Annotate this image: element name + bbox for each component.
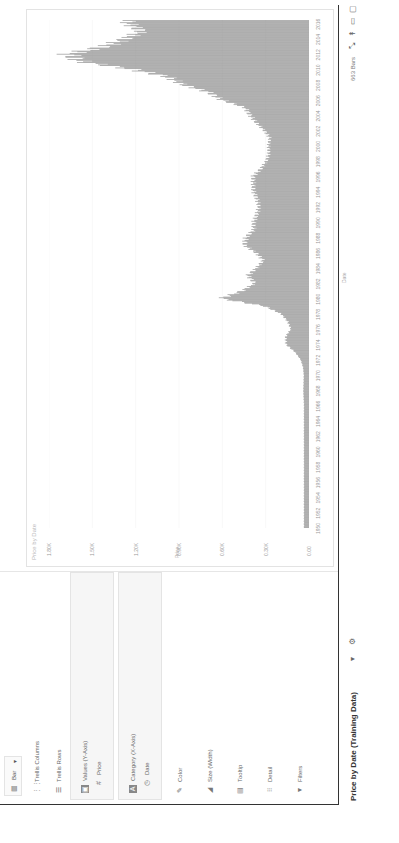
shelf-label: Trellis Rows [56, 750, 62, 782]
shelf-trellis-rows[interactable]: ☰ Trellis Rows [48, 572, 70, 800]
x-tick-label: 1992 [315, 202, 321, 213]
tooltip-icon: ▤ [236, 786, 244, 794]
color-icon: ✎ [176, 786, 184, 794]
x-tick-label: 1966 [315, 401, 321, 412]
x-tick-label: 1952 [315, 508, 321, 519]
x-tick-label: 1970 [315, 370, 321, 381]
shelf-label: Trellis Columns [34, 741, 40, 782]
x-tick-label: 1980 [315, 294, 321, 305]
x-tick-label: 1974 [315, 340, 321, 351]
settings-icon[interactable]: ⚙ [348, 638, 357, 645]
shelf-list: ⋮⋮ Trellis Columns ☰ Trellis Rows ▣ Valu… [26, 572, 338, 800]
panel-icon[interactable]: ▭ [348, 17, 357, 25]
x-tick-label: 1988 [315, 233, 321, 244]
bar-count-status: 663 Bars [350, 57, 356, 81]
y-tick-label: 1.80K [46, 543, 52, 556]
field-label: Price [96, 761, 102, 775]
pin-icon[interactable]: ↟ [348, 30, 357, 37]
x-tick-label: 1978 [315, 309, 321, 320]
y-tick-label: 0.60K [219, 543, 225, 556]
clock-icon: ◷ [143, 779, 151, 787]
shelf-filters[interactable]: ▼ Filters [286, 572, 314, 800]
x-tick-label: 2006 [315, 95, 321, 106]
trellis-rows-icon: ☰ [55, 786, 63, 794]
window-frame-left [0, 804, 338, 805]
x-tick-label: 2014 [315, 34, 321, 45]
window-icon[interactable]: ▢ [348, 5, 357, 13]
x-tick-label: 1962 [315, 431, 321, 442]
x-tick-label: 2010 [315, 65, 321, 76]
x-tick-label: 1982 [315, 278, 321, 289]
shelf-trellis-columns[interactable]: ⋮⋮ Trellis Columns [26, 572, 48, 800]
chart-panel: Price by Date 0.000.30K0.60K0.90K1.20K1.… [26, 9, 334, 567]
plot-area: 0.000.30K0.60K0.90K1.20K1.50K1.80K 19501… [49, 20, 317, 528]
filter-icon: ▼ [296, 786, 304, 794]
values-icon: ▣ [81, 785, 89, 793]
shelf-label: Filters [297, 766, 303, 782]
shelf-tooltip[interactable]: ▤ Tooltip [226, 572, 254, 800]
shelf-values-y-axis[interactable]: ▣ Values (Y-Axis) # Price [70, 572, 114, 800]
field-label: Date [144, 762, 150, 775]
x-tick-label: 1954 [315, 492, 321, 503]
chevron-down-icon: ▾ [11, 760, 18, 763]
x-tick-label: 1972 [315, 355, 321, 366]
x-tick-label: 1968 [315, 385, 321, 396]
y-axis-label: Price [174, 547, 180, 558]
x-tick-label: 1996 [315, 171, 321, 182]
x-tick-label: 1990 [315, 217, 321, 228]
shelf-label: Category (X-Axis) [130, 734, 136, 781]
x-tick-label: 1976 [315, 324, 321, 335]
x-tick-label: 2008 [315, 80, 321, 91]
collapse-icon[interactable]: ⤡ [348, 43, 358, 49]
x-tick-label: 2012 [315, 49, 321, 60]
shelf-label: Detail [267, 767, 273, 782]
bar-chart-icon: ▥ [10, 784, 18, 792]
shelf-size[interactable]: ◢ Size (Width) [196, 572, 224, 800]
view-title[interactable]: Price by Date (Training Data) [349, 692, 358, 801]
numeric-field-icon: # [95, 779, 103, 787]
chevron-down-icon[interactable]: ▾ [348, 657, 357, 661]
y-tick-label: 1.20K [133, 543, 139, 556]
x-tick-label: 1960 [315, 446, 321, 457]
y-tick-label: 0.00 [306, 546, 312, 556]
shelf-category-x-axis[interactable]: A Category (X-Axis) ◷ Date [118, 572, 162, 800]
trellis-columns-icon: ⋮⋮ [33, 786, 41, 794]
x-tick-label: 2016 [315, 19, 321, 30]
chart-type-label: Bar [11, 771, 17, 780]
x-tick-label: 1958 [315, 462, 321, 473]
chart-type-select[interactable]: ▥ Bar ▾ [4, 756, 22, 796]
x-tick-label: 1998 [315, 156, 321, 167]
shelf-label: Values (Y-Axis) [82, 741, 88, 781]
x-tick-label: 1956 [315, 477, 321, 488]
x-tick-label: 2004 [315, 110, 321, 121]
x-tick-label: 1984 [315, 263, 321, 274]
category-icon: A [129, 785, 137, 793]
shelf-label: Tooltip [237, 765, 243, 782]
x-tick-label: 1950 [315, 523, 321, 534]
shelf-label: Size (Width) [207, 749, 213, 782]
x-tick-label: 1994 [315, 187, 321, 198]
rotated-stage: ▥ Bar ▾ ⋮⋮ Trellis Columns ☰ Trellis Row… [0, 0, 399, 843]
y-tick-label: 0.30K [263, 543, 269, 556]
x-tick-label: 1986 [315, 248, 321, 259]
size-icon: ◢ [206, 786, 214, 794]
bar-series[interactable] [49, 20, 309, 528]
x-tick-label: 2002 [315, 126, 321, 137]
detail-icon: ⁝⁝ [266, 786, 274, 794]
field-pill-date[interactable]: ◷ Date [143, 762, 151, 787]
shelf-color[interactable]: ✎ Color [166, 572, 194, 800]
y-tick-label: 1.50K [89, 543, 95, 556]
chart-title: Price by Date [31, 524, 37, 560]
window-frame-bottom [338, 5, 339, 805]
footer-bar: Price by Date (Training Data) ▾ ⚙ 663 Ba… [342, 7, 366, 803]
x-tick-label: 2000 [315, 141, 321, 152]
shelf-detail[interactable]: ⁝⁝ Detail [256, 572, 284, 800]
x-tick-label: 1964 [315, 416, 321, 427]
shelf-label: Color [177, 768, 183, 782]
field-pill-price[interactable]: # Price [95, 761, 103, 787]
